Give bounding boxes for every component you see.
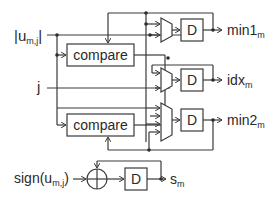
- output-label-s: sm: [170, 171, 185, 189]
- svg-text:D: D: [187, 72, 197, 88]
- svg-text:D: D: [131, 171, 141, 187]
- input-label-j: j: [36, 78, 40, 95]
- output-label-idx: idxm: [227, 72, 252, 90]
- input-label-u-abs: |um,j|: [14, 27, 42, 46]
- compare-block-2: compare: [67, 114, 134, 136]
- input-label-sign: sign(um,j): [14, 170, 69, 188]
- register-min2: D: [181, 109, 222, 131]
- sign-path: D: [73, 161, 166, 190]
- svg-text:D: D: [187, 22, 197, 38]
- mux-min1: [144, 18, 180, 42]
- svg-text:compare: compare: [73, 117, 128, 133]
- svg-text:compare: compare: [73, 47, 128, 63]
- output-label-min2: min2m: [227, 112, 265, 130]
- register-idx: D: [181, 69, 222, 91]
- min-finder-circuit-diagram: |um,j| j sign(um,j) compare compare: [0, 0, 279, 202]
- compare-block-1: compare: [67, 44, 134, 66]
- register-min1: D: [181, 19, 222, 41]
- xor-icon: [87, 169, 107, 189]
- svg-text:D: D: [187, 112, 197, 128]
- output-label-min1: min1m: [227, 22, 265, 40]
